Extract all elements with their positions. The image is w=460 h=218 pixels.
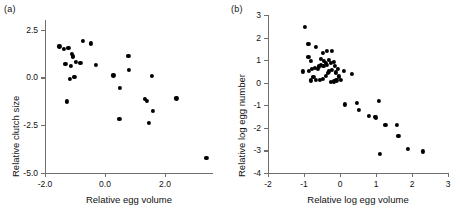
data-point [72,75,76,79]
data-point [68,77,72,81]
data-point [71,55,75,59]
y-axis-line [45,20,46,173]
y-tick [264,128,268,129]
data-point [145,99,149,103]
data-point [63,62,67,66]
scatter-panel-b: (b)3210-1-2-3-4-2-10123Relative log egg … [228,0,460,218]
y-tick [264,150,268,151]
y-tick [264,38,268,39]
data-point [343,102,347,106]
data-point [66,46,70,50]
x-tick-label: -2.0 [38,180,53,189]
x-axis-title: Relative egg volume [86,194,172,205]
x-tick [268,173,269,177]
data-point [117,117,121,121]
data-point [377,99,381,103]
y-tick-label: 0.0 [5,73,38,82]
data-point [396,133,400,137]
y-tick [41,125,45,126]
data-point [78,61,82,65]
x-tick [412,173,413,177]
x-tick-label: -2 [264,180,272,189]
x-axis-line [268,173,448,174]
x-tick-label: 0.0 [99,180,111,189]
data-point [330,49,334,53]
data-point [127,68,131,72]
x-tick-label: 2.0 [159,180,171,189]
x-tick-label: 2 [410,180,415,189]
y-tick-label: 1 [228,56,261,65]
data-point [204,156,208,160]
data-point [374,115,378,119]
x-tick [448,173,449,177]
data-point [314,78,318,82]
data-point [350,72,354,76]
y-tick [41,30,45,31]
y-tick-label: 2.5 [5,25,38,34]
x-axis-line [45,173,213,174]
x-tick [45,173,46,177]
y-axis-line [268,15,269,173]
data-point [339,78,343,82]
x-tick-label: 1 [374,180,379,189]
data-point [62,47,66,51]
x-tick [105,173,106,177]
y-tick [264,83,268,84]
y-axis-title: Relative clutch size [10,96,21,177]
data-point [303,25,307,29]
data-point [81,39,85,43]
data-point [342,69,346,73]
data-point [150,74,154,78]
data-point [174,96,178,100]
data-point [357,108,361,112]
y-tick [264,15,268,16]
x-tick [340,173,341,177]
data-point [118,86,122,90]
data-point [69,64,73,68]
data-point [65,99,69,103]
x-tick [376,173,377,177]
data-point [306,42,310,46]
x-tick [304,173,305,177]
data-point [147,121,151,125]
data-point [94,63,98,67]
data-point [354,100,358,104]
data-point [367,114,371,118]
data-point [325,49,329,53]
x-tick-label: 0 [338,180,343,189]
y-tick-label: 2 [228,33,261,42]
data-point [126,54,130,58]
data-point [307,69,311,73]
panel-tag-a: (a) [4,4,16,14]
data-point [151,109,155,113]
data-point [309,78,313,82]
data-point [395,123,399,127]
data-point [309,59,313,63]
data-point [313,45,317,49]
data-point [421,149,425,153]
data-point [111,73,115,77]
data-point [301,69,305,73]
y-tick [264,105,268,106]
scatter-panel-a: (a)2.50.0-2.5-5.0-2.00.02.0Relative egg … [0,0,228,218]
data-point [378,151,382,155]
x-tick-label: -1 [300,180,308,189]
x-axis-title: Relative log egg volume [307,194,408,205]
data-point [406,147,410,151]
y-tick [41,77,45,78]
data-point [383,123,387,127]
y-tick [264,60,268,61]
data-point [336,67,340,71]
data-point [89,41,93,45]
x-tick-label: 3 [446,180,451,189]
y-tick-label: 3 [228,11,261,20]
figure-container: (a)2.50.0-2.5-5.0-2.00.02.0Relative egg … [0,0,460,218]
y-axis-title: Relative log egg number [236,74,247,177]
data-point [329,80,333,84]
x-tick [165,173,166,177]
data-point [318,77,322,81]
